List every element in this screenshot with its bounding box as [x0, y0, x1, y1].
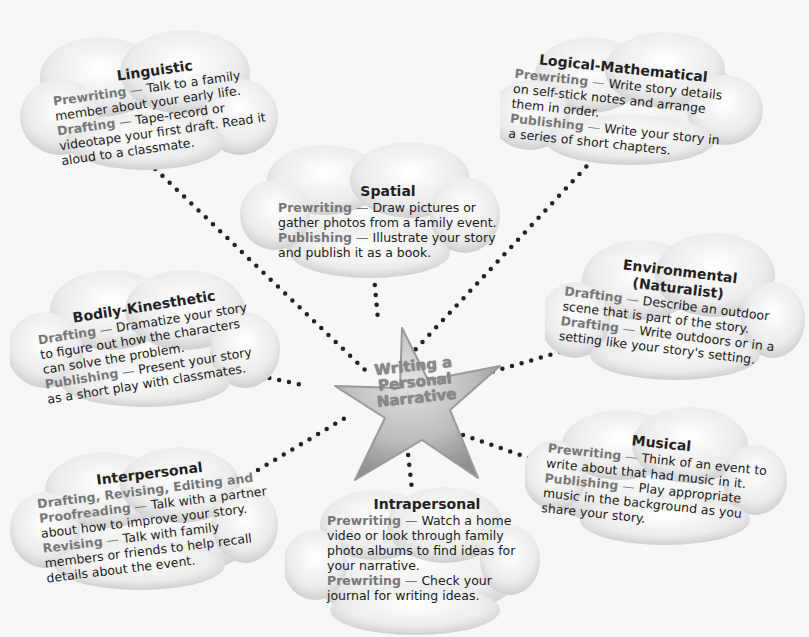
stage-label: Prewriting: [327, 513, 401, 528]
cloud-entry: Publishing — Illustrate your story and p…: [278, 230, 498, 260]
cloud-title: Spatial: [278, 183, 498, 199]
cloud-bodily-kinesthetic: Bodily-Kinesthetic Drafting — Dramatize …: [10, 260, 280, 410]
cloud-entry: Prewriting — Check your journal for writ…: [327, 573, 527, 603]
stage-label: Prewriting: [278, 200, 352, 215]
cloud-title: Intrapersonal: [327, 496, 527, 512]
cloud-entry: Prewriting — Watch a home video or look …: [327, 513, 527, 573]
stage-label: Publishing: [278, 230, 352, 245]
cloud-logical-mathematical: Logical-Mathematical Prewriting — Write …: [500, 25, 765, 165]
cloud-musical: Musical Prewriting — Think of an event t…: [525, 400, 790, 550]
cloud-entry: Prewriting — Draw pictures or gather pho…: [278, 200, 498, 230]
cloud-intrapersonal: Intrapersonal Prewriting — Watch a home …: [285, 480, 540, 637]
stage-label: Prewriting: [327, 573, 401, 588]
cloud-environmental: Environmental (Naturalist) Drafting — De…: [545, 225, 807, 385]
cloud-spatial: Spatial Prewriting — Draw pictures or ga…: [240, 135, 500, 280]
cloud-interpersonal: Interpersonal Drafting, Revising, Editin…: [10, 440, 280, 595]
